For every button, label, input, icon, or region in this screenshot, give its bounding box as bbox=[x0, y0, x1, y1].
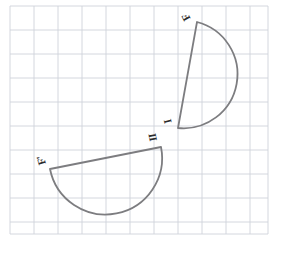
geometry-figure-layer bbox=[0, 0, 284, 253]
upper-half-disk-shape bbox=[178, 22, 237, 128]
lower-half-disk-shape bbox=[50, 147, 162, 215]
geometry-worksheet-canvas: F I II F' bbox=[0, 0, 284, 253]
